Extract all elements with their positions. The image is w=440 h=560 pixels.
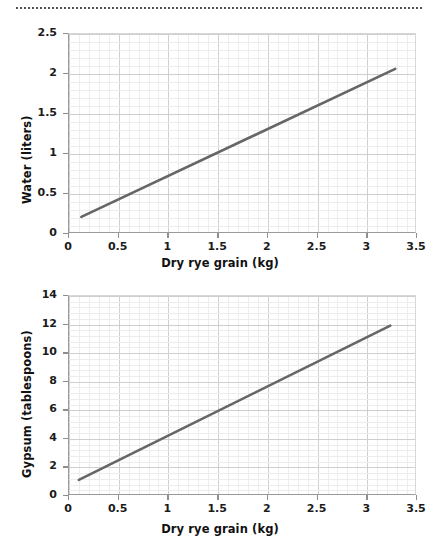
x-tick-label: 3.5 [396, 241, 436, 253]
x-tick-mark [317, 233, 318, 238]
x-tick-mark [118, 495, 119, 500]
x-tick-mark [217, 495, 218, 500]
y-tick-label: 0 [17, 489, 57, 501]
series-line-water [69, 34, 415, 232]
y-tick-mark [63, 295, 68, 296]
x-tick-mark [68, 495, 69, 500]
x-tick-label: 1 [147, 503, 187, 515]
x-tick-label: 0.5 [98, 503, 138, 515]
y-tick-mark [63, 466, 68, 467]
chart-page: 00.511.522.533.500.511.522.5 Dry rye gra… [0, 0, 440, 560]
x-tick-mark [118, 233, 119, 238]
x-tick-mark [167, 233, 168, 238]
x-tick-mark [68, 233, 69, 238]
x-tick-label: 0 [48, 503, 88, 515]
y-tick-mark [63, 193, 68, 194]
x-tick-label: 3 [346, 503, 386, 515]
x-tick-label: 2.5 [297, 503, 337, 515]
y-tick-label: 12 [17, 318, 57, 330]
x-tick-mark [267, 233, 268, 238]
dotted-divider [16, 7, 424, 9]
x-tick-label: 3 [346, 241, 386, 253]
y-tick-mark [63, 113, 68, 114]
y-tick-mark [63, 495, 68, 496]
y-tick-mark [63, 233, 68, 234]
x-tick-mark [366, 495, 367, 500]
y-tick-mark [63, 409, 68, 410]
y-tick-mark [63, 438, 68, 439]
y-tick-mark [63, 324, 68, 325]
data-series-line [79, 326, 390, 480]
x-tick-mark [267, 495, 268, 500]
x-tick-mark [317, 495, 318, 500]
x-tick-label: 1.5 [197, 241, 237, 253]
chart-gypsum-vs-grain: 00.511.522.533.502468101214 Dry rye grai… [0, 286, 440, 546]
y-tick-mark [63, 73, 68, 74]
x-tick-label: 3.5 [396, 503, 436, 515]
y-tick-mark [63, 352, 68, 353]
y-tick-label: 2 [17, 67, 57, 79]
x-tick-mark [416, 495, 417, 500]
data-series-line [81, 69, 395, 217]
y-tick-label: 2.5 [17, 27, 57, 39]
x-tick-label: 0 [48, 241, 88, 253]
chart-water-vs-grain: 00.511.522.533.500.511.522.5 Dry rye gra… [0, 24, 440, 274]
x-tick-mark [167, 495, 168, 500]
y-tick-label: 14 [17, 289, 57, 301]
y-axis-title-2: Gypsum (tablespoons) [20, 330, 34, 478]
x-axis-title-1: Dry rye grain (kg) [0, 256, 440, 270]
y-axis-title-1: Water (liters) [20, 115, 34, 204]
plot-area-2 [68, 295, 416, 495]
x-tick-label: 0.5 [98, 241, 138, 253]
series-line-gypsum [69, 296, 415, 494]
x-tick-mark [366, 233, 367, 238]
y-tick-mark [63, 33, 68, 34]
x-tick-mark [217, 233, 218, 238]
plot-area-1 [68, 33, 416, 233]
y-tick-mark [63, 153, 68, 154]
x-tick-label: 1.5 [197, 503, 237, 515]
x-axis-title-2: Dry rye grain (kg) [0, 522, 440, 536]
x-tick-label: 2 [247, 503, 287, 515]
x-tick-label: 2.5 [297, 241, 337, 253]
x-tick-label: 2 [247, 241, 287, 253]
y-tick-label: 0 [17, 227, 57, 239]
y-tick-mark [63, 381, 68, 382]
x-tick-label: 1 [147, 241, 187, 253]
x-tick-mark [416, 233, 417, 238]
